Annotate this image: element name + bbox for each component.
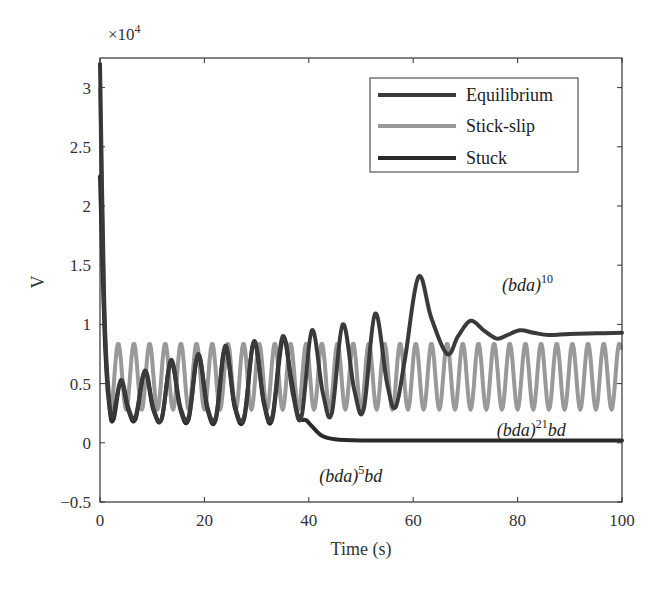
x-tick-label: 40 bbox=[300, 511, 317, 530]
legend-label-stick-slip: Stick-slip bbox=[466, 116, 535, 136]
curve-annotation: (bda)10 bbox=[502, 272, 553, 296]
curve-annotation: (bda)21bd bbox=[497, 417, 567, 441]
x-tick-label: 20 bbox=[196, 511, 213, 530]
y-tick-label: 0 bbox=[83, 434, 92, 453]
y-tick-label: 2 bbox=[83, 197, 92, 216]
y-tick-label: 1 bbox=[83, 315, 92, 334]
y-tick-label: −0.5 bbox=[60, 493, 91, 512]
y-tick-label: 3 bbox=[83, 79, 92, 98]
x-tick-label: 0 bbox=[96, 511, 105, 530]
y-tick-label: 0.5 bbox=[70, 375, 91, 394]
x-tick-label: 80 bbox=[509, 511, 526, 530]
x-axis-title: Time (s) bbox=[331, 539, 392, 560]
legend-label-stuck: Stuck bbox=[466, 148, 507, 168]
line-chart: 020406080100−0.500.511.522.53 (bda)10(bd… bbox=[0, 0, 664, 592]
x-tick-label: 60 bbox=[405, 511, 422, 530]
y-multiplier: ×104 bbox=[108, 22, 141, 44]
y-tick-label: 2.5 bbox=[70, 138, 91, 157]
y-tick-label: 1.5 bbox=[70, 256, 91, 275]
x-tick-label: 100 bbox=[609, 511, 635, 530]
legend: Equilibrium Stick-slip Stuck bbox=[370, 78, 578, 172]
curve-annotation: (bda)5bd bbox=[319, 463, 383, 487]
y-axis-title: V bbox=[28, 276, 48, 289]
legend-label-equilibrium: Equilibrium bbox=[466, 85, 553, 105]
